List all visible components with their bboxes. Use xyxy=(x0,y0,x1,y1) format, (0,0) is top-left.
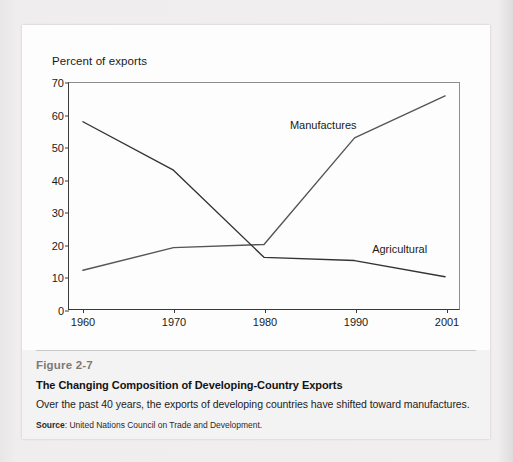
x-axis-tick-label: 2001 xyxy=(435,316,459,328)
x-axis-tick-label: 1990 xyxy=(344,316,368,328)
x-axis-tick-label: 1970 xyxy=(162,316,186,328)
y-axis-tick-mark xyxy=(65,278,69,279)
x-axis-tick-mark xyxy=(356,309,357,313)
x-axis-tick-mark xyxy=(447,309,448,313)
y-axis-tick-mark xyxy=(65,213,69,214)
chart-region: Percent of exports 010203040506070196019… xyxy=(22,25,490,350)
y-axis-tick-mark xyxy=(65,245,69,246)
figure-description: Over the past 40 years, the exports of d… xyxy=(36,398,470,410)
figure-caption-block: Figure 2-7 The Changing Composition of D… xyxy=(22,350,490,439)
plot-area: 01020304050607019601970198019902001Manuf… xyxy=(68,82,460,310)
y-axis-tick-mark xyxy=(65,311,69,312)
y-axis-tick-label: 30 xyxy=(52,207,64,219)
y-axis-tick-mark xyxy=(65,83,69,84)
y-axis-tick-mark xyxy=(65,148,69,149)
y-axis-tick-mark xyxy=(65,180,69,181)
figure-heading: The Changing Composition of Developing-C… xyxy=(36,379,343,391)
series-label-agricultural: Agricultural xyxy=(372,243,427,255)
figure-card: Percent of exports 010203040506070196019… xyxy=(22,25,490,439)
x-axis-tick-label: 1960 xyxy=(71,316,95,328)
y-axis-tick-mark xyxy=(65,115,69,116)
y-axis-title: Percent of exports xyxy=(52,55,147,67)
chart-svg xyxy=(69,83,459,309)
figure-page: Percent of exports 010203040506070196019… xyxy=(0,0,513,462)
y-axis-tick-label: 50 xyxy=(52,142,64,154)
figure-number: Figure 2-7 xyxy=(36,359,93,371)
figure-source: Source: United Nations Council on Trade … xyxy=(36,420,262,430)
y-axis-tick-label: 70 xyxy=(52,77,64,89)
source-label: Source xyxy=(36,420,65,430)
x-axis-tick-mark xyxy=(174,309,175,313)
y-axis-tick-label: 10 xyxy=(52,272,64,284)
y-axis-tick-label: 60 xyxy=(52,110,64,122)
y-axis-tick-label: 20 xyxy=(52,240,64,252)
caption-divider xyxy=(36,350,476,351)
y-axis-tick-label: 40 xyxy=(52,175,64,187)
y-axis-tick-label: 0 xyxy=(58,305,64,317)
x-axis-tick-mark xyxy=(83,309,84,313)
x-axis-tick-label: 1980 xyxy=(253,316,277,328)
x-axis-tick-mark xyxy=(265,309,266,313)
series-label-manufactures: Manufactures xyxy=(290,119,357,131)
source-text: : United Nations Council on Trade and De… xyxy=(65,420,262,430)
